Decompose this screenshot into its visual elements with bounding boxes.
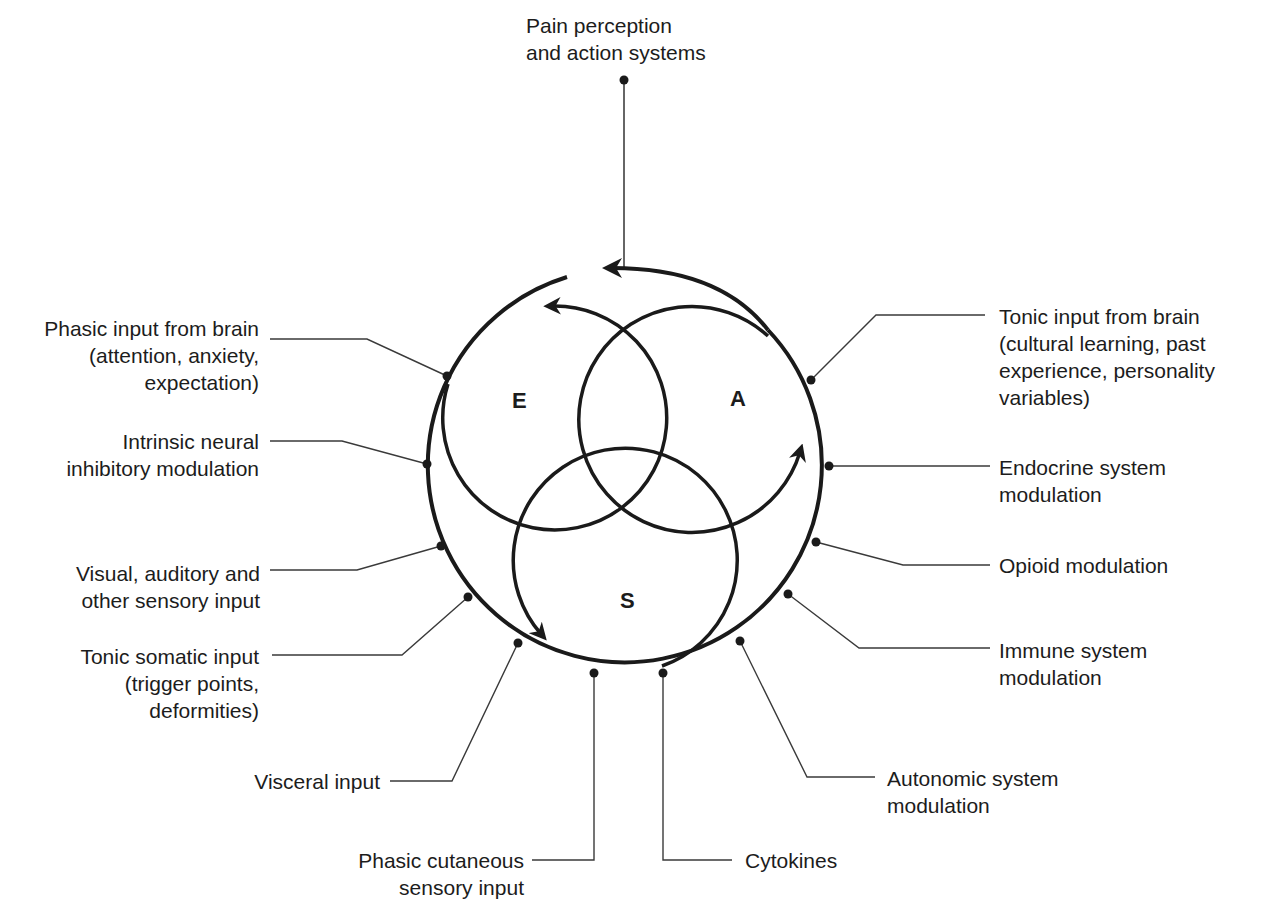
label-tonic-brain: Tonic input from brain (cultural learnin…: [999, 303, 1215, 411]
label-immune: Immune system modulation: [999, 637, 1147, 691]
label-intrinsic-neural: Intrinsic neural inhibitory modulation: [66, 428, 259, 482]
circle-e: [443, 306, 667, 530]
letter-e: E: [512, 388, 527, 414]
label-autonomic: Autonomic system modulation: [887, 765, 1059, 819]
letter-a: A: [730, 386, 746, 412]
circle-a: [579, 306, 800, 532]
label-visual-auditory: Visual, auditory and other sensory input: [76, 560, 260, 614]
label-endocrine: Endocrine system modulation: [999, 454, 1166, 508]
output-connector: [620, 76, 629, 269]
letter-s: S: [620, 588, 635, 614]
label-cytokines: Cytokines: [745, 847, 837, 874]
label-phasic-brain: Phasic input from brain (attention, anxi…: [44, 315, 259, 396]
right-leader-dots: [659, 376, 834, 678]
label-opioid: Opioid modulation: [999, 552, 1168, 579]
label-tonic-somatic: Tonic somatic input (trigger points, def…: [80, 643, 259, 724]
label-phasic-cutaneous: Phasic cutaneous sensory input: [358, 847, 524, 901]
left-leader-dots: [423, 372, 599, 678]
circle-s: [513, 448, 737, 666]
label-visceral: Visceral input: [254, 768, 380, 795]
label-pain-perception: Pain perception and action systems: [526, 12, 706, 66]
connector-dot: [620, 76, 629, 85]
